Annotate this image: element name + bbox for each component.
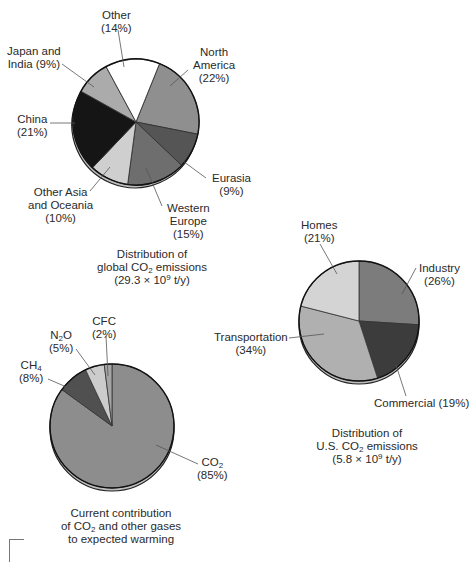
label-north-america: North America (22%) [193,46,235,85]
label-china-name: China [17,113,48,126]
label-transportation-pct: (34%) [214,344,288,357]
label-n2o-pct: (5%) [49,342,73,355]
us-emissions-pie [299,261,419,384]
label-japan-india: Japan and India (9%) [7,45,61,71]
label-n2o-name: N2O [49,329,73,342]
label-other-asia-pct: (10%) [28,212,93,225]
label-homes-name: Homes [301,219,337,232]
label-western-europe-line1: Western [167,202,210,215]
label-ch4: CH4 (8%) [19,359,43,385]
us-caption-line2: U.S. CO2 emissions [297,440,437,453]
label-north-america-line2: America [193,59,235,72]
label-ch4-name: CH4 [19,359,43,372]
label-co2: CO2 (85%) [197,456,228,482]
label-japan-india-line1: Japan and [7,45,61,58]
gases-caption-line1: Current contribution [51,507,191,520]
label-north-america-pct: (22%) [193,72,235,85]
us-caption-line1: Distribution of [297,427,437,440]
gases-caption-line2: of CO2 and other gases [51,520,191,533]
label-eurasia-name: Eurasia [212,172,251,185]
label-industry: Industry (26%) [419,262,460,288]
label-industry-pct: (26%) [419,275,460,288]
label-commercial-text: Commercial (19%) [374,397,469,410]
crop-mark [9,539,24,562]
label-cfc: CFC (2%) [92,315,116,341]
global-caption-line1: Distribution of [72,248,232,261]
us-caption: Distribution of U.S. CO2 emissions (5.8 … [297,427,437,466]
label-cfc-pct: (2%) [92,328,116,341]
global-caption-line2: global CO2 emissions [72,261,232,274]
label-western-europe: Western Europe (15%) [167,202,210,241]
label-eurasia-pct: (9%) [212,185,251,198]
gases-caption: Current contribution of CO2 and other ga… [51,507,191,546]
label-eurasia: Eurasia (9%) [212,172,251,198]
label-japan-india-line2: India (9%) [7,58,61,71]
gases-caption-line3: to expected warming [51,533,191,546]
label-industry-name: Industry [419,262,460,275]
label-north-america-line1: North [193,46,235,59]
label-other-name: Other [101,9,132,22]
label-co2-name: CO2 [197,456,228,469]
global-caption: Distribution of global CO2 emissions (29… [72,248,232,287]
label-other: Other (14%) [101,9,132,35]
label-other-asia-line2: and Oceania [28,199,93,212]
label-homes: Homes (21%) [301,219,337,245]
label-n2o: N2O (5%) [49,329,73,355]
label-homes-pct: (21%) [301,232,337,245]
label-cfc-name: CFC [92,315,116,328]
us-caption-line3: (5.8 × 109 t/y) [297,453,437,466]
label-commercial: Commercial (19%) [374,397,469,410]
label-transportation-name: Transportation [214,331,288,344]
label-china-pct: (21%) [17,126,48,139]
slice-industry [359,261,419,325]
label-ch4-pct: (8%) [19,372,43,385]
label-other-pct: (14%) [101,22,132,35]
global-caption-line3: (29.3 × 109 t/y) [72,274,232,287]
label-china: China (21%) [17,113,48,139]
label-transportation: Transportation (34%) [214,331,288,357]
label-western-europe-pct: (15%) [167,228,210,241]
label-western-europe-line2: Europe [167,215,210,228]
label-other-asia-line1: Other Asia [28,186,93,199]
warming-gases-pie [50,364,174,491]
label-other-asia: Other Asia and Oceania (10%) [28,186,93,225]
label-co2-pct: (85%) [197,469,228,482]
